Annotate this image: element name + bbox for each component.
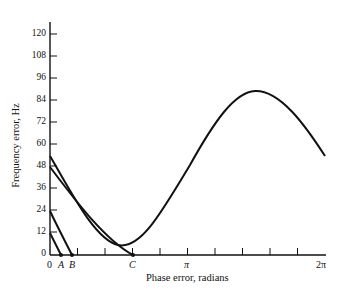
curve-24hz [50,211,72,255]
x-label-zero: 0 [47,259,52,270]
curve-48hz [50,167,133,255]
y-ticks [50,34,57,232]
curve-54hz [50,91,325,245]
y-tick-label: 36 [22,182,46,192]
y-tick-label: 96 [22,72,46,82]
y-axis-title: Frequency error, Hz [10,91,21,201]
phase-plane-plot [0,0,349,294]
x-axis-title: Phase error, radians [146,272,229,283]
y-tick-label: 72 [22,116,46,126]
y-tick-label: 108 [22,50,46,60]
x-label-pi: π [184,259,189,270]
trajectories [50,91,325,255]
curve-12hz [50,233,61,255]
x-ticks [78,248,298,255]
x-label-b: B [69,259,75,270]
x-label-a: A [58,259,64,270]
y-tick-label: 120 [22,28,46,38]
y-tick-label: 24 [22,204,46,214]
y-tick-label: 0 [22,248,46,258]
y-tick-label: 48 [22,160,46,170]
y-tick-label: 84 [22,94,46,104]
y-tick-label: 60 [22,138,46,148]
y-tick-label: 12 [22,226,46,236]
x-label-c: C [129,259,136,270]
x-label-two-pi: 2π [316,259,326,270]
